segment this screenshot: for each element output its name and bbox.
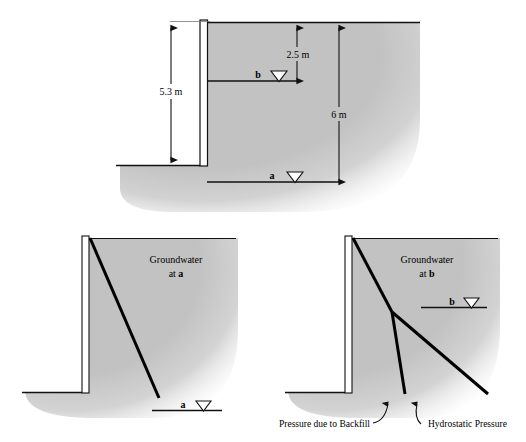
water-label-b: b <box>255 69 261 80</box>
bottom-left-figure: Groundwater at a a <box>22 236 238 418</box>
br-retaining-wall <box>345 236 352 393</box>
br-caption-token: b <box>429 268 435 279</box>
backfill-pressure-label: Pressure due to Backfill <box>279 419 370 429</box>
br-water-label: b <box>449 296 455 307</box>
bl-caption-token: a <box>178 268 183 279</box>
bottom-right-figure: Groundwater at b b Pressure due to Backf… <box>279 236 507 429</box>
retaining-wall-stem <box>200 20 208 166</box>
br-caption-at: at <box>419 268 429 279</box>
figure-page: 5.3 m 2.5 m 6 m b a <box>0 0 526 442</box>
br-caption-line1: Groundwater <box>401 254 454 265</box>
dimension-label-5-3m: 5.3 m <box>160 86 183 97</box>
bl-caption-line2: at a <box>169 268 184 279</box>
water-label-a: a <box>270 170 275 181</box>
br-caption-line2: at b <box>419 268 435 279</box>
bl-retaining-wall <box>82 236 89 393</box>
diagram-canvas: 5.3 m 2.5 m 6 m b a <box>0 0 526 442</box>
top-figure: 5.3 m 2.5 m 6 m b a <box>116 20 420 212</box>
bl-water-label: a <box>181 399 186 410</box>
hydrostatic-pressure-label: Hydrostatic Pressure <box>428 419 507 429</box>
dimension-label-2-5m: 2.5 m <box>287 49 310 60</box>
dimension-label-6m: 6 m <box>331 109 347 120</box>
soil-mass-bottom-left <box>25 238 238 418</box>
bl-caption-at: at <box>169 268 179 279</box>
bl-caption-line1: Groundwater <box>150 254 203 265</box>
